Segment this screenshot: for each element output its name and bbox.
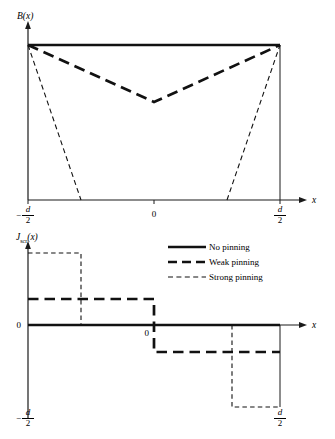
top-curve-weak-pinning [28, 45, 280, 102]
panel-top: B(x) x 0 [17, 11, 317, 219]
top-xtick-left-denominator: 2 [22, 216, 34, 225]
bottom-xtick-right-numerator: d [274, 408, 286, 417]
bottom-curve-strong-pinning-left [28, 253, 81, 325]
panel-bottom: Jscr(x) x 0 0 [16, 232, 317, 418]
bottom-xtick-label-right: d 2 [274, 408, 286, 428]
top-x-axis-arrowhead [299, 197, 307, 203]
bottom-xtick-label-left: − d 2 [22, 408, 34, 428]
top-y-axis-arrowhead [25, 21, 31, 29]
bottom-xtick-left-denominator: 2 [22, 419, 34, 428]
bottom-xtick-label-center: 0 [145, 328, 150, 338]
bottom-ytick-label-zero: 0 [17, 320, 22, 330]
bottom-xtick-right-denominator: 2 [274, 419, 286, 428]
top-xtick-right-denominator: 2 [274, 216, 286, 225]
top-xtick-left-numerator: d [22, 205, 34, 214]
top-x-axis-label: x [311, 195, 317, 205]
top-y-axis-label: B(x) [17, 11, 33, 22]
legend-label-strong-pinning: Strong pinning [209, 272, 263, 282]
legend-label-no-pinning: No pinning [209, 242, 250, 252]
bottom-xtick-left-minus: − [16, 414, 21, 423]
top-xtick-right-numerator: d [274, 205, 286, 214]
top-curve-strong-pinning-left [28, 45, 81, 200]
figure-container: B(x) x 0 Jscr(x) [0, 0, 335, 439]
top-xtick-label-right: d 2 [274, 205, 286, 225]
bottom-xtick-left-numerator: d [22, 408, 34, 417]
top-xtick-left-minus: − [16, 211, 21, 220]
bottom-x-axis-label: x [311, 320, 317, 330]
bottom-y-axis-label-arg: (x) [27, 232, 38, 243]
bottom-x-axis-arrowhead [299, 322, 307, 328]
top-curve-strong-pinning-right [227, 45, 280, 200]
top-xtick-label-center: 0 [152, 209, 157, 219]
bottom-y-axis-label-subscript: scr [20, 238, 27, 244]
bottom-curve-strong-pinning-right [232, 325, 280, 407]
top-xtick-label-left: − d 2 [22, 205, 34, 225]
legend-label-weak-pinning: Weak pinning [209, 257, 260, 267]
legend: No pinning Weak pinning Strong pinning [168, 242, 263, 282]
bottom-y-axis-label: Jscr(x) [16, 232, 38, 244]
